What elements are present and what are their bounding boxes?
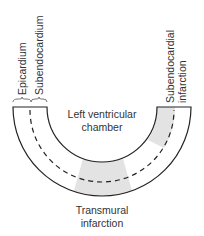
subendocardium-label: Subendocardium [33,15,45,95]
transmural-label-line2: infarction [81,217,124,229]
ventricle-wall-diagram: Epicardium Subendocardium Subendocardial… [0,0,204,236]
chamber-label-line2: chamber [82,121,123,133]
subendocardial-infarction-label-line2: infarction [176,60,188,103]
subendocardial-infarction-label-line1: Subendocardial [164,30,176,103]
subendocardial-infarction-region [148,107,175,148]
epicardium-brace [13,97,31,102]
subendocardium-brace [31,97,47,102]
epicardium-label: Epicardium [16,42,28,95]
transmural-label-line1: Transmural [76,204,129,216]
chamber-label-line1: Left ventricular [68,108,137,120]
